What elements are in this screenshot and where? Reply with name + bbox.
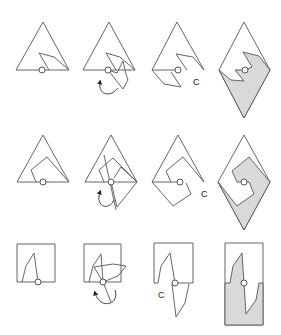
row-1-panel-4-tile xyxy=(219,22,270,118)
copy-label: C xyxy=(193,77,200,87)
copy-label: C xyxy=(158,290,165,300)
rotation-arrow-icon xyxy=(99,192,114,206)
pivot-point-icon xyxy=(172,280,178,286)
pivot-point-icon xyxy=(241,179,247,185)
pivot-point-icon xyxy=(40,179,46,185)
row-2-panel-3-rotated-copy: C xyxy=(152,135,208,206)
row-3-panel-4-tile xyxy=(225,243,263,325)
tiling-diagram: C C xyxy=(0,0,281,335)
row-3-panel-3-rotated-copy: C xyxy=(154,243,193,317)
rotation-arrow-icon xyxy=(95,290,116,304)
row-1-panel-1-base-triangle xyxy=(16,22,69,73)
row-1-panel-2-rotation xyxy=(83,22,135,94)
pivot-point-icon xyxy=(242,67,248,73)
pivot-point-icon xyxy=(241,280,247,286)
pivot-point-icon xyxy=(35,279,41,285)
row-3-panel-2-rotation xyxy=(84,244,126,304)
pivot-point-icon xyxy=(100,279,106,285)
rotation-arrow-icon xyxy=(100,82,118,94)
row-2-panel-2-rotation xyxy=(85,135,137,210)
row-2-panel-1-base-triangle xyxy=(17,135,69,185)
pivot-point-icon xyxy=(105,67,111,73)
pivot-point-icon xyxy=(39,67,45,73)
pivot-point-icon xyxy=(108,179,114,185)
pivot-point-icon xyxy=(177,179,183,185)
row-3-panel-1-base-square xyxy=(17,244,55,285)
copy-label: C xyxy=(201,189,208,199)
row-1-panel-3-rotated-copy: C xyxy=(152,22,204,87)
row-2-panel-4-tile xyxy=(218,135,270,230)
pivot-point-icon xyxy=(175,67,181,73)
